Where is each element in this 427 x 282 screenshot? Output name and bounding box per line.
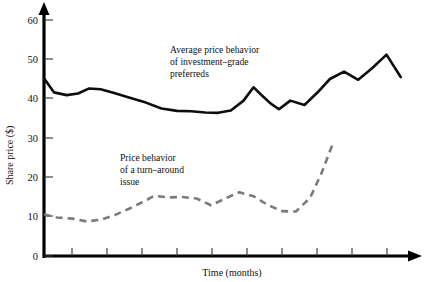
y-tick-label-20: 20: [28, 172, 39, 183]
y-axis-tick-labels: 60 50 40 30 20 10 0: [28, 15, 39, 262]
turnaround-annotation: Price behavior of a turn–around issue: [120, 152, 184, 187]
annot-a-line-3: preferreds: [170, 68, 209, 79]
annot-b-line-2: of a turn–around: [120, 164, 184, 175]
investment-grade-annotation: Average price behavior of investment–gra…: [170, 44, 260, 79]
annot-a-line-1: Average price behavior: [170, 44, 260, 55]
y-tick-label-40: 40: [28, 93, 39, 104]
series-turnaround-issue: [44, 144, 333, 221]
line-chart-svg: 60 50 40 30 20 10 0 Share price ($) Time…: [0, 0, 427, 282]
y-axis-arrowhead: [39, 2, 50, 15]
y-tick-label-50: 50: [28, 54, 39, 65]
chart-container: 60 50 40 30 20 10 0 Share price ($) Time…: [0, 0, 427, 282]
y-tick-label-60: 60: [28, 15, 39, 26]
x-axis-arrowhead: [408, 251, 422, 262]
y-tick-label-0: 0: [33, 251, 38, 262]
annot-b-line-1: Price behavior: [120, 152, 176, 163]
x-axis-title: Time (months): [202, 267, 261, 279]
annot-b-line-3: issue: [120, 176, 139, 187]
y-axis-title: Share price ($): [4, 126, 16, 185]
y-tick-label-30: 30: [28, 133, 39, 144]
y-tick-label-10: 10: [28, 211, 39, 222]
annot-a-line-2: of investment–grade: [170, 56, 249, 67]
